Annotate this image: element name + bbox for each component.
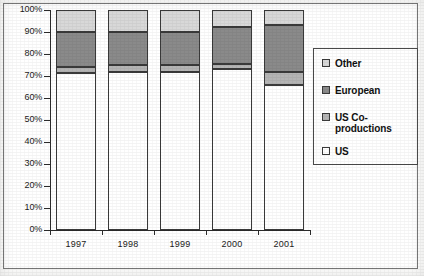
bar-column (264, 10, 304, 230)
plot-area (50, 10, 310, 230)
x-axis-tick (206, 231, 207, 235)
y-axis-tick-label: 90% (0, 27, 42, 36)
y-axis-tick-label: 50% (0, 115, 42, 124)
y-axis-tick-label: 60% (0, 93, 42, 102)
x-axis-tick (102, 231, 103, 235)
bar-column (160, 10, 200, 230)
y-axis-tick-label: 10% (0, 203, 42, 212)
legend-item: US Co- productions (322, 112, 392, 134)
legend-swatch-icon (322, 113, 330, 121)
x-axis-tick (310, 231, 311, 235)
bar-segment-us (212, 69, 252, 230)
y-axis-tick-label: 40% (0, 137, 42, 146)
legend-item-label: European (335, 85, 380, 96)
bar-segment-european (56, 32, 96, 67)
x-axis-tick (50, 231, 51, 235)
chart-legend: OtherEuropeanUS Co- productionsUS (313, 48, 418, 165)
legend-item: European (322, 85, 380, 96)
x-axis-tick-label: 1999 (154, 239, 206, 249)
legend-item-label: US Co- productions (335, 112, 392, 134)
bar-column (56, 10, 96, 230)
bar-segment-us-co-productions (160, 65, 200, 72)
bar-column (212, 10, 252, 230)
x-axis-tick (258, 231, 259, 235)
chart-screenshot: 0%10%20%30%40%50%60%70%80%90%100% 199719… (0, 0, 424, 276)
x-axis-tick-label: 2000 (206, 239, 258, 249)
x-axis-tick (154, 231, 155, 235)
x-axis-tick-label: 2001 (258, 239, 310, 249)
y-axis-tick-label: 80% (0, 49, 42, 58)
y-axis-tick-label: 100% (0, 5, 42, 14)
bar-segment-other (108, 10, 148, 32)
y-axis-tick-label: 20% (0, 181, 42, 190)
bar-segment-us-co-productions (212, 64, 252, 70)
legend-item-label: Other (335, 58, 361, 69)
legend-swatch-icon (322, 86, 330, 94)
bar-segment-european (264, 25, 304, 71)
bar-column (108, 10, 148, 230)
bar-segment-other (264, 10, 304, 25)
legend-item: Other (322, 58, 361, 69)
y-axis-label-group: 0%10%20%30%40%50%60%70%80%90%100% (0, 0, 44, 276)
bar-segment-other (160, 10, 200, 32)
y-axis-tick-label: 70% (0, 71, 42, 80)
legend-item-label: US (335, 146, 349, 157)
bar-segment-us-co-productions (108, 65, 148, 72)
bar-segment-other (56, 10, 96, 32)
x-axis-tick-label: 1997 (50, 239, 102, 249)
bar-segment-us-co-productions (56, 67, 96, 73)
legend-item: US (322, 146, 349, 157)
x-axis-tick-label: 1998 (102, 239, 154, 249)
legend-swatch-icon (322, 147, 330, 155)
x-axis-line (50, 230, 311, 231)
bar-segment-us (160, 72, 200, 230)
bar-segment-european (212, 27, 252, 64)
bar-segment-us (264, 85, 304, 230)
y-axis-tick-label: 0% (0, 225, 42, 234)
bar-segment-other (212, 10, 252, 27)
bar-segment-european (108, 32, 148, 65)
bar-segment-us-co-productions (264, 72, 304, 85)
y-axis-tick-label: 30% (0, 159, 42, 168)
bar-segment-european (160, 32, 200, 65)
bar-segment-us (56, 73, 96, 230)
legend-swatch-icon (322, 59, 330, 67)
bar-segment-us (108, 72, 148, 230)
